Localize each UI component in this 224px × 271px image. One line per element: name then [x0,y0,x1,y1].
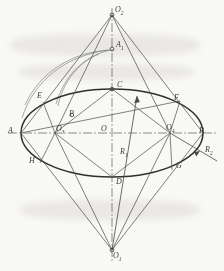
point-label-p: P [69,110,74,120]
point-label-f: F [174,94,179,104]
line-o2-to-o3 [55,15,112,133]
point-label-o: O [101,125,107,135]
arc-top-left-long [22,50,108,118]
point-label-o1: O1 [113,252,122,262]
point-label-a1: A1 [116,41,124,51]
point-label-d: D [116,178,122,188]
radius-r1-leader [112,96,137,250]
point-label-h: H [29,157,35,167]
radius-label-r2: R2 [205,146,213,156]
line-o1-to-o3 [55,133,112,250]
radius-r1-arrowhead [134,96,140,103]
construction-drawing [0,0,224,271]
radius-indicators [112,96,217,250]
arc-o3-upper [58,54,99,106]
line-o1-to-a [21,133,112,250]
chord-o3-to-h [40,133,55,163]
point-label-a: A [8,127,13,137]
centre-lines [8,8,216,262]
point-label-o4: O4 [166,124,175,134]
light-construction-arcs [22,50,110,118]
radius-label-r1: R1 [120,148,128,158]
line-o2-to-o4 [112,15,170,133]
technical-diagram: O2 A1 C E F P A O3 O O4 B R2 R1 H G D O1 [0,0,224,271]
node-markers [70,13,114,252]
point-label-o2: O2 [115,6,124,16]
point-label-b: B [199,127,204,137]
line-o2-to-b [112,15,203,133]
point-label-g: G [176,162,182,172]
point-label-o3: O3 [56,125,65,135]
point-label-e: E [37,92,42,102]
line-o2-to-a [21,15,112,133]
point-label-c: C [117,81,122,91]
chord-o4-to-g [170,133,172,170]
